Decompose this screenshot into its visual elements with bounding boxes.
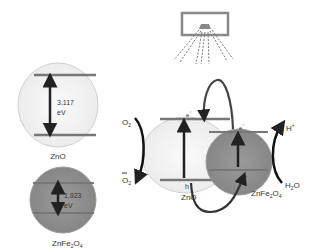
zno-label: ZnO [50,152,66,161]
znfe2o4-label: ZnFe2O4 [52,239,83,249]
photocatalysis-diagram: 3.117 eV ZnO 1.923 eV ZnFe2O4 e⁻ [0,0,318,252]
oxygen-reduction: O2 O2 [122,118,144,186]
znfe2o4-gap-unit: eV [64,202,73,209]
h2o-oxidation-arrow [273,126,282,183]
hplus-label: H+ [286,122,295,133]
h2o-label: H2O [285,181,300,191]
water-oxidation: H+ H2O [273,122,300,191]
zno-gap-value: 3.117 [57,99,74,106]
center-znfe2o4-label: ZnFe2O4 [251,189,282,199]
zno-bandgap-panel: 3.117 eV ZnO [18,63,98,161]
superoxide-label: O2 [122,176,131,186]
lamp-icon [174,13,233,64]
znfe2o4-gap-value: 1.923 [64,192,82,199]
zno-gap-unit: eV [57,109,66,116]
center-zno-hole: h [185,183,189,190]
o2-label: O2 [122,118,131,128]
znfe2o4-circle [30,167,96,233]
znfe2o4-bandgap-panel: 1.923 eV ZnFe2O4 [30,167,96,249]
